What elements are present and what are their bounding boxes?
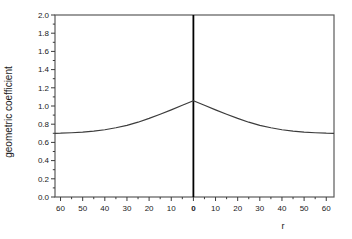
x-tick-label: 20 (233, 204, 242, 213)
x-tick-label: 10 (167, 204, 176, 213)
y-tick-label: 1.6 (38, 47, 50, 56)
curve-line (55, 101, 334, 134)
x-axis-ticks (61, 197, 327, 201)
y-tick-label: 0.2 (38, 175, 50, 184)
y-tick-label: 0.4 (38, 156, 50, 165)
plot-frame (55, 15, 334, 197)
y-axis-title: geometric coefficient (3, 66, 14, 158)
y-axis-tick-labels: 0.00.20.40.60.81.01.21.41.61.82.0 (38, 11, 50, 202)
chart-figure: 0.00.20.40.60.81.01.21.41.61.82.0 605040… (0, 0, 352, 239)
y-tick-label: 0.8 (38, 120, 50, 129)
x-tick-label: 50 (300, 204, 309, 213)
y-tick-label: 1.4 (38, 65, 50, 74)
geometric-coefficient-chart: 0.00.20.40.60.81.01.21.41.61.82.0 605040… (0, 0, 352, 239)
x-tick-label: 10 (211, 204, 220, 213)
y-tick-label: 2.0 (38, 11, 50, 20)
x-tick-label: 20 (145, 204, 154, 213)
x-tick-label: 60 (56, 204, 65, 213)
plot-area: 0.00.20.40.60.81.01.21.41.61.82.0 605040… (38, 11, 334, 213)
y-axis-ticks (51, 15, 55, 197)
y-tick-label: 1.0 (38, 102, 50, 111)
y-tick-label: 0.0 (38, 193, 50, 202)
x-axis-tick-labels: 6050403020100102030405060 (56, 204, 331, 213)
x-tick-label: 0 (191, 204, 196, 213)
y-tick-label: 1.2 (38, 84, 50, 93)
x-tick-label: 50 (78, 204, 87, 213)
y-tick-label: 0.6 (38, 138, 50, 147)
x-tick-label: 30 (255, 204, 264, 213)
y-tick-label: 1.8 (38, 29, 50, 38)
x-axis-title: r (282, 221, 285, 231)
x-tick-label: 40 (278, 204, 287, 213)
x-tick-label: 40 (100, 204, 109, 213)
x-tick-label: 30 (123, 204, 132, 213)
x-tick-label: 60 (322, 204, 331, 213)
